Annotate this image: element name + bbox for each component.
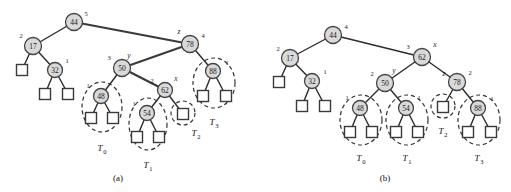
node-48-height-label: 1 <box>86 82 89 89</box>
node-88-height-label: 1 <box>490 95 493 102</box>
node-44-height-label: 5 <box>84 10 87 17</box>
edge-78-50 <box>122 44 190 68</box>
node-50-height-label: 2 <box>370 70 373 77</box>
node-44-key: 44 <box>329 31 337 40</box>
node-50-var-label: y <box>391 66 396 75</box>
node-78-var-label: z <box>442 69 446 78</box>
panel-a: 445172321784z503y881481622x541T0T1T2T3(a… <box>17 10 236 184</box>
node-78-height-label: 4 <box>201 32 205 39</box>
ext-17-left[interactable] <box>274 77 285 88</box>
panel-caption-a: (a) <box>113 173 123 183</box>
node-62-var-label: x <box>173 74 178 83</box>
subtree-T2-label: T2 <box>439 126 448 137</box>
node-44-height-label: 4 <box>344 23 348 30</box>
node-48-height-label: 1 <box>345 94 348 101</box>
node-32-height-label: 1 <box>323 68 326 75</box>
ext-54-right[interactable] <box>154 132 165 143</box>
node-62-key: 62 <box>418 53 426 62</box>
node-62-key: 62 <box>161 86 169 95</box>
ext-88-left[interactable] <box>463 127 474 138</box>
node-62-var-label: x <box>432 40 437 49</box>
ext-17-left[interactable] <box>17 65 28 76</box>
panel-caption-b: (b) <box>380 173 391 183</box>
figure-root: 445172321784z503y881481622x541T0T1T2T3(a… <box>0 0 511 192</box>
subtree-T0-label: T0 <box>98 143 107 154</box>
node-48-key: 48 <box>356 104 364 113</box>
ext-32-right[interactable] <box>320 101 331 112</box>
ext-32-right[interactable] <box>63 89 74 100</box>
ext-32-left[interactable] <box>40 89 51 100</box>
subtree-T2-label: T2 <box>192 128 201 139</box>
node-17-key: 17 <box>29 42 37 51</box>
node-78-height-label: 2 <box>468 69 471 76</box>
edge-44-78 <box>74 22 190 44</box>
node-88-key: 88 <box>474 104 482 113</box>
node-32-height-label: 1 <box>65 57 68 64</box>
node-44-key: 44 <box>70 18 78 27</box>
node-17-height-label: 2 <box>276 45 279 52</box>
node-78-key: 78 <box>186 40 194 49</box>
subtree-T3-label: T3 <box>210 117 219 128</box>
ext-48-left[interactable] <box>345 127 356 138</box>
ext-54-right[interactable] <box>413 127 424 138</box>
panel-b: 444172321623x502y782z481541881T0T1T2T3(b… <box>274 23 501 184</box>
node-78-var-label: z <box>177 27 181 36</box>
node-50-key: 50 <box>381 79 389 88</box>
node-78-key: 78 <box>453 78 461 87</box>
ext-48-left[interactable] <box>86 113 97 124</box>
node-54-key: 54 <box>143 109 151 118</box>
node-17-height-label: 2 <box>19 32 22 39</box>
node-32-key: 32 <box>308 77 316 86</box>
subtree-T1-label: T1 <box>403 153 412 164</box>
avl-tree-figure: 445172321784z503y881481622x541T0T1T2T3(a… <box>0 0 511 192</box>
node-88-height-label: 1 <box>225 59 228 66</box>
subtree-T0-label: T0 <box>357 153 366 164</box>
ext-88-right[interactable] <box>221 91 232 102</box>
subtree-T3-label: T3 <box>475 153 484 164</box>
ext-54-left[interactable] <box>132 132 143 143</box>
node-54-height-label: 1 <box>417 94 420 101</box>
node-48-key: 48 <box>97 92 105 101</box>
node-62-height-label: 3 <box>406 43 409 50</box>
ext-48-right[interactable] <box>108 113 119 124</box>
node-54-key: 54 <box>402 104 410 113</box>
ext-54-left[interactable] <box>391 127 402 138</box>
ext-78-left[interactable] <box>438 102 449 113</box>
subtree-T1-label: T1 <box>144 160 153 171</box>
ext-32-left[interactable] <box>297 101 308 112</box>
node-62-height-label: 2 <box>150 77 153 84</box>
node-50-var-label: y <box>126 51 131 60</box>
ext-88-right[interactable] <box>486 127 497 138</box>
ext-88-left[interactable] <box>198 91 209 102</box>
node-54-height-label: 1 <box>132 100 135 107</box>
ext-48-right[interactable] <box>367 127 378 138</box>
node-50-height-label: 3 <box>107 54 110 61</box>
node-17-key: 17 <box>286 54 294 63</box>
ext-62-right[interactable] <box>178 109 189 120</box>
node-88-key: 88 <box>209 67 217 76</box>
node-50-key: 50 <box>118 64 126 73</box>
node-32-key: 32 <box>51 66 59 75</box>
